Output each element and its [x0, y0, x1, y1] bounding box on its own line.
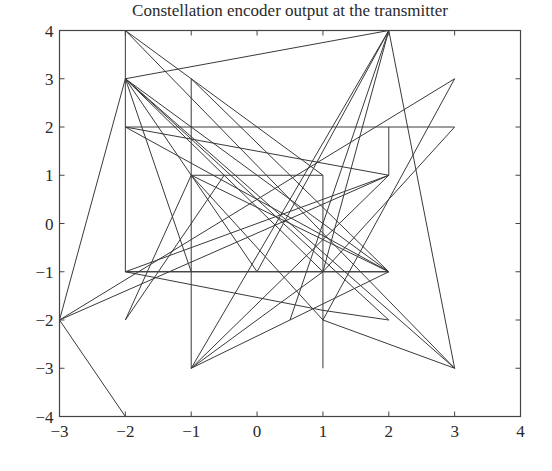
- plot-area: −3−2−101234 −4−3−2−101234: [0, 0, 552, 471]
- path-segment: [323, 320, 455, 368]
- path-segment: [191, 175, 389, 272]
- path-segment: [125, 175, 388, 272]
- y-tick-label: 0: [45, 215, 54, 234]
- x-tick-label: −2: [116, 422, 134, 441]
- constellation-path: [60, 31, 455, 417]
- path-segment: [125, 31, 454, 369]
- y-tick-label: −2: [35, 311, 53, 330]
- y-tick-label: 3: [45, 70, 54, 89]
- path-segment: [60, 79, 126, 320]
- x-tick-label: 3: [450, 422, 459, 441]
- y-tick-label: 1: [45, 166, 54, 185]
- y-tick-label: 4: [45, 22, 54, 41]
- path-segment: [389, 31, 455, 369]
- y-axis-tick-labels: −4−3−2−101234: [35, 22, 54, 427]
- y-tick-label: −3: [35, 359, 53, 378]
- x-tick-label: −1: [182, 422, 200, 441]
- y-tick-label: −1: [35, 263, 53, 282]
- x-tick-label: 1: [319, 422, 328, 441]
- path-segment: [125, 175, 224, 320]
- path-segment: [191, 272, 323, 369]
- x-axis-tick-labels: −3−2−101234: [50, 422, 525, 441]
- x-tick-label: 0: [253, 422, 262, 441]
- path-segment: [125, 79, 388, 320]
- path-segment: [125, 31, 323, 176]
- y-tick-label: −4: [35, 408, 54, 427]
- path-segment: [125, 127, 388, 175]
- path-segment: [191, 175, 323, 320]
- y-tick-label: 2: [45, 118, 54, 137]
- path-segment: [323, 310, 389, 320]
- path-segment: [125, 175, 191, 320]
- x-tick-label: 4: [516, 422, 525, 441]
- path-segment: [60, 320, 126, 417]
- x-tick-label: 2: [385, 422, 394, 441]
- path-segment: [125, 272, 323, 311]
